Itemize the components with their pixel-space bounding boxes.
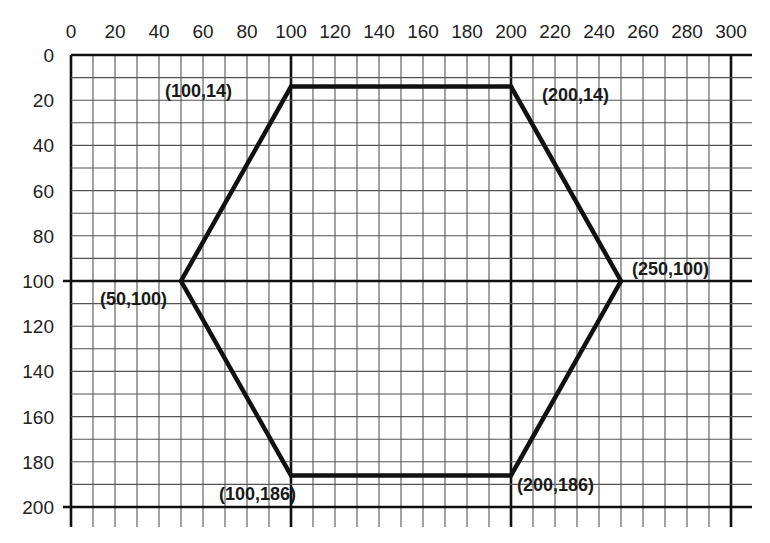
vertex-label-100-14: (100,14) — [165, 81, 232, 101]
y-tick-label: 20 — [33, 90, 54, 111]
vertex-labels: (100,14) (200,14) (250,100) (200,186) (1… — [100, 81, 709, 504]
y-tick-label: 80 — [33, 226, 54, 247]
y-tick-label: 120 — [22, 316, 54, 337]
y-tick-label: 180 — [22, 452, 54, 473]
x-tick-label: 260 — [627, 21, 659, 42]
x-tick-label: 60 — [192, 21, 213, 42]
hexagon-grid-chart: 0204060801001201401601802002202402602803… — [0, 0, 770, 543]
vertex-label-200-186: (200,186) — [517, 475, 594, 495]
x-axis-ticks: 0204060801001201401601802002202402602803… — [66, 21, 747, 42]
vertex-label-100-186: (100,186) — [219, 484, 296, 504]
vertex-label-250-100: (250,100) — [632, 259, 709, 279]
x-tick-label: 20 — [104, 21, 125, 42]
x-tick-label: 160 — [407, 21, 439, 42]
y-axis-ticks: 020406080100120140160180200 — [22, 45, 54, 518]
x-tick-label: 40 — [148, 21, 169, 42]
vertex-label-50-100: (50,100) — [100, 289, 167, 309]
y-tick-label: 160 — [22, 407, 54, 428]
x-tick-label: 200 — [495, 21, 527, 42]
y-tick-label: 60 — [33, 181, 54, 202]
x-tick-label: 0 — [66, 21, 77, 42]
x-tick-label: 240 — [583, 21, 615, 42]
x-tick-label: 80 — [236, 21, 257, 42]
vertex-label-200-14: (200,14) — [542, 85, 609, 105]
x-tick-label: 120 — [319, 21, 351, 42]
x-tick-label: 180 — [451, 21, 483, 42]
y-tick-label: 200 — [22, 497, 54, 518]
y-tick-label: 0 — [43, 45, 54, 66]
y-tick-label: 140 — [22, 361, 54, 382]
x-tick-label: 220 — [539, 21, 571, 42]
x-tick-label: 280 — [671, 21, 703, 42]
x-tick-label: 300 — [715, 21, 747, 42]
y-tick-label: 100 — [22, 271, 54, 292]
y-tick-label: 40 — [33, 135, 54, 156]
x-tick-label: 140 — [363, 21, 395, 42]
x-tick-label: 100 — [275, 21, 307, 42]
